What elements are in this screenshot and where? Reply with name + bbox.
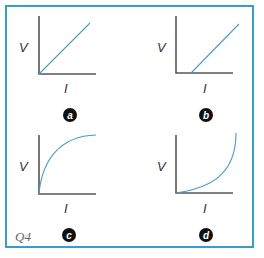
panel-c: V I c Q4	[15, 135, 96, 244]
y-label-d: V	[157, 159, 167, 174]
y-label-b: V	[157, 40, 167, 55]
axes-b	[176, 16, 233, 73]
curve-a	[39, 23, 90, 74]
badge-c-label: c	[66, 230, 72, 241]
badge-b-label: b	[203, 110, 209, 121]
curve-b	[191, 24, 239, 73]
y-label-c: V	[19, 159, 29, 174]
question-label: Q4	[15, 229, 31, 244]
x-label-a: I	[64, 81, 68, 96]
x-label-b: I	[203, 81, 207, 96]
badge-d-label: d	[203, 230, 210, 241]
figure: V I a V I b V I c Q4 V I	[0, 0, 264, 258]
badge-a-label: a	[67, 110, 73, 121]
panel-a: V I a	[19, 16, 96, 122]
graphs-canvas: V I a V I b V I c Q4 V I	[0, 0, 264, 258]
axes-d	[176, 135, 233, 193]
axes-c	[39, 135, 96, 194]
panel-d: V I d	[157, 133, 236, 242]
x-label-c: I	[64, 201, 68, 216]
panel-b: V I b	[157, 16, 239, 122]
y-label-a: V	[19, 40, 29, 55]
curve-d	[176, 133, 236, 193]
x-label-d: I	[203, 201, 207, 216]
curve-c	[39, 135, 96, 194]
